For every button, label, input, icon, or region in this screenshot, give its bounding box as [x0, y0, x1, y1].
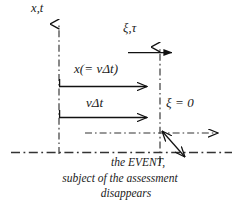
displacement-label-lower: vΔt: [86, 96, 103, 109]
displacement-label-upper: x(= vΔt): [74, 62, 118, 75]
figure-caption: the EVENT, subject of the assessment dis…: [0, 155, 240, 202]
caption-line-1: the EVENT,: [0, 155, 240, 171]
axis-label-xt: x,t: [31, 2, 43, 15]
axis-label-xi-tau: ξ,τ: [123, 22, 136, 35]
displacement-arrow-lower: [59, 110, 147, 118]
caption-line-3: disappears: [0, 186, 240, 202]
caption-line-2: subject of the assessment: [0, 171, 240, 187]
displacement-arrow-upper: [59, 79, 147, 87]
xi-equals-zero-label: ξ = 0: [166, 96, 194, 109]
physics-spacetime-diagram: x,t ξ,τ x(= vΔt) vΔt ξ = 0 the EVENT, su…: [0, 0, 240, 220]
